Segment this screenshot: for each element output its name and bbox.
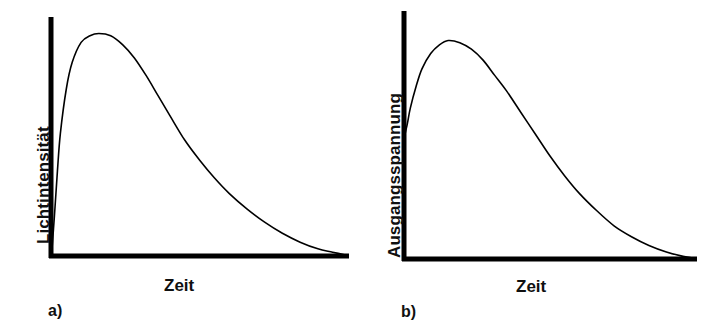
data-curve-b [405,40,696,258]
x-axis-label-b: Zeit [516,277,546,297]
figure-container: Lichtintensität Zeit a) Ausgangsspannung… [0,0,705,330]
x-axis-label-a: Zeit [164,276,194,296]
panel-letter-a: a) [48,302,62,320]
chart-panel-a: Lichtintensität Zeit a) [0,0,352,330]
chart-panel-b: Ausgangsspannung Zeit b) [352,0,705,330]
panel-letter-b: b) [401,303,416,321]
data-curve-a [52,34,348,256]
y-axis-label-b: Ausgangsspannung [385,93,405,258]
y-axis-label-a: Lichtintensität [34,126,54,244]
